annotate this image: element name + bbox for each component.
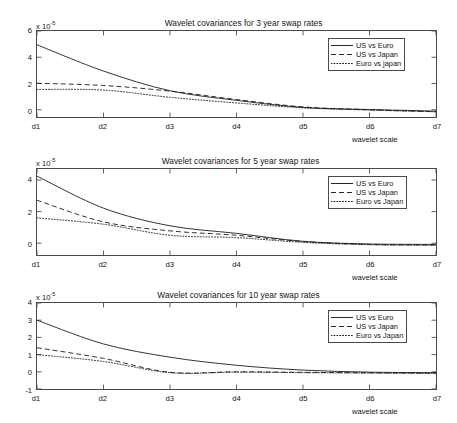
legend-line-sample [331,42,353,49]
x-axis-tick-label: d6 [366,122,374,131]
x-axis-tick-label: d1 [32,260,40,269]
y-axis-tick-label: 2 [10,333,32,342]
series-line [37,348,436,373]
x-axis-tick-label: d4 [232,260,240,269]
legend-item[interactable]: US vs Japan [331,188,403,197]
chart-panel-3-year: Wavelet covariances for 3 year swap rate… [0,8,457,148]
x-axis-tick-label: d7 [433,260,441,269]
x-axis-tick-label: d4 [232,122,240,131]
legend-item[interactable]: US vs Japan [331,322,403,331]
x-axis-tick-label: d1 [32,394,40,403]
x-axis-tick-label: d3 [165,122,173,131]
legend-line-sample [331,189,353,196]
legend-line-sample [331,180,353,187]
x-axis-tick-label: d7 [433,394,441,403]
x-axis-tick-label: d5 [299,394,307,403]
y-axis-tick-label: 1 [10,350,32,359]
x-axis-tick-label: d5 [299,122,307,131]
y-axis-tick-label: 0 [10,368,32,377]
legend-line-sample [331,51,353,58]
legend-item[interactable]: Euro vs Japan [331,197,403,206]
y-axis-tick-label: 0 [10,106,32,115]
chart-legend: US vs EuroUS vs JapanEuro vs Japan [328,176,407,209]
legend-item[interactable]: US vs Euro [331,41,401,50]
x-axis-tick-label: d6 [366,394,374,403]
series-line [37,218,436,245]
chart-panel-10-year: Wavelet covariances for 10 year swap rat… [0,288,457,423]
x-axis-label: wavelet scale [352,407,398,416]
chart-title: Wavelet covariances for 10 year swap rat… [0,290,457,300]
y-axis-tick-label: -1 [10,386,32,395]
legend-label: Euro vs Japan [356,197,403,206]
chart-title: Wavelet covariances for 5 year swap rate… [0,156,457,166]
chart-panel-5-year: Wavelet covariances for 5 year swap rate… [0,148,457,288]
legend-label: Euro vs japan [356,59,401,68]
legend-label: US vs Euro [356,313,393,322]
x-axis-tick-label: d2 [99,394,107,403]
wavelet-covariance-figure: Wavelet covariances for 3 year swap rate… [0,0,457,423]
y-axis-tick-label: 2 [10,79,32,88]
legend-line-sample [331,198,353,205]
chart-legend: US vs EuroUS vs JapanEuro vs japan [328,38,405,71]
legend-line-sample [331,314,353,321]
y-axis-tick-label: 2 [10,207,32,216]
y-axis-tick-label: 3 [10,315,32,324]
legend-item[interactable]: Euro vs japan [331,59,401,68]
legend-label: US vs Japan [356,188,398,197]
legend-line-sample [331,60,353,67]
series-line [37,83,436,111]
legend-item[interactable]: Euro vs Japan [331,331,403,340]
legend-label: US vs Japan [356,322,398,331]
legend-label: Euro vs Japan [356,331,403,340]
legend-item[interactable]: US vs Euro [331,179,403,188]
y-axis-tick-label: 6 [10,26,32,35]
x-axis-tick-label: d3 [165,394,173,403]
legend-line-sample [331,332,353,339]
x-axis-tick-label: d7 [433,122,441,131]
x-axis-tick-label: d3 [165,260,173,269]
x-axis-tick-label: d2 [99,260,107,269]
x-axis-tick-label: d4 [232,394,240,403]
y-axis-tick-label: 4 [10,52,32,61]
y-axis-exponent: x 10-5 [36,157,55,168]
y-axis-exponent: x 10-5 [36,20,55,31]
y-axis-tick-label: 4 [10,298,32,307]
x-axis-tick-label: d2 [99,122,107,131]
chart-legend: US vs EuroUS vs JapanEuro vs Japan [328,310,407,343]
legend-label: US vs Japan [356,50,398,59]
legend-item[interactable]: US vs Japan [331,50,401,59]
y-axis-exponent: x 10-5 [36,291,55,302]
y-axis-tick-label: 0 [10,239,32,248]
x-axis-tick-label: d1 [32,122,40,131]
legend-label: US vs Euro [356,179,393,188]
legend-label: US vs Euro [356,41,393,50]
x-axis-tick-label: d5 [299,260,307,269]
legend-line-sample [331,323,353,330]
chart-title: Wavelet covariances for 3 year swap rate… [0,18,457,28]
x-axis-label: wavelet scale [352,273,398,282]
legend-item[interactable]: US vs Euro [331,313,403,322]
x-axis-label: wavelet scale [352,135,398,144]
x-axis-tick-label: d6 [366,260,374,269]
y-axis-tick-label: 4 [10,175,32,184]
